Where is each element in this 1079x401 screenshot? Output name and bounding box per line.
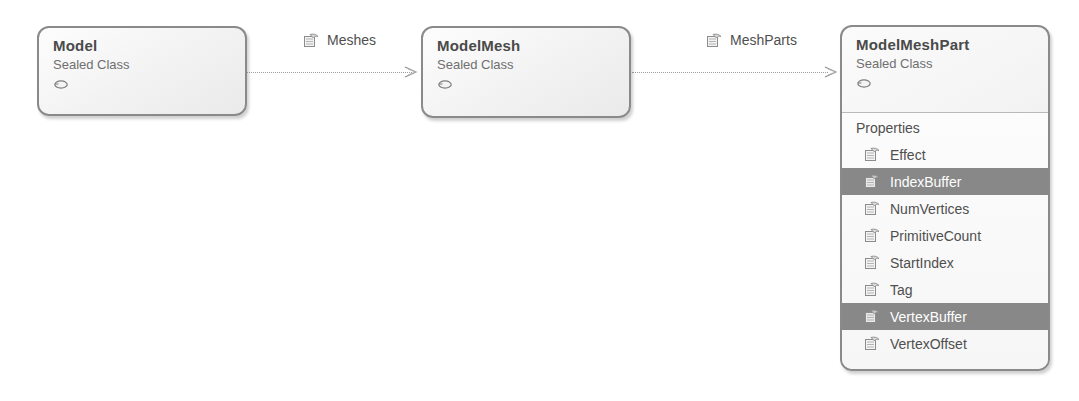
property-name: Tag	[890, 282, 913, 298]
property-name: StartIndex	[890, 255, 954, 271]
property-name: VertexOffset	[890, 336, 967, 352]
class-stereotype: Sealed Class	[437, 56, 629, 74]
property-icon	[864, 309, 881, 324]
property-icon	[864, 147, 881, 162]
property-icon	[864, 336, 881, 351]
association-label-mesh-parts: MeshParts	[706, 32, 797, 48]
property-icon	[864, 174, 881, 189]
property-row-startindex[interactable]: StartIndex	[842, 249, 1048, 276]
property-icon	[864, 255, 881, 270]
properties-compartment: Properties Effect IndexBuffer	[842, 112, 1048, 369]
property-row-effect[interactable]: Effect	[842, 141, 1048, 168]
property-row-indexbuffer[interactable]: IndexBuffer	[842, 168, 1048, 195]
property-icon	[303, 33, 320, 48]
class-stereotype: Sealed Class	[53, 56, 245, 74]
class-title: Model	[53, 37, 245, 54]
association-line-meshes[interactable]	[246, 72, 412, 73]
property-name: Effect	[890, 147, 926, 163]
property-name: VertexBuffer	[890, 309, 967, 325]
class-title: ModelMesh	[437, 37, 629, 54]
sealed-oval-icon	[437, 79, 453, 90]
property-row-vertexbuffer[interactable]: VertexBuffer	[842, 303, 1048, 330]
compartment-title: Properties	[842, 113, 1048, 141]
class-box-model[interactable]: Model Sealed Class	[37, 26, 247, 116]
property-row-numvertices[interactable]: NumVertices	[842, 195, 1048, 222]
diagram-canvas: Meshes MeshParts Model Sealed Class M	[0, 0, 1079, 401]
association-label-text: MeshParts	[730, 32, 797, 48]
class-box-model-mesh-part[interactable]: ModelMeshPart Sealed Class Properties Ef…	[840, 25, 1050, 371]
property-list: Effect IndexBuffer NumVertices P	[842, 141, 1048, 357]
class-box-model-mesh[interactable]: ModelMesh Sealed Class	[421, 26, 631, 118]
association-label-text: Meshes	[327, 32, 376, 48]
property-row-vertexoffset[interactable]: VertexOffset	[842, 330, 1048, 357]
property-row-primitivecount[interactable]: PrimitiveCount	[842, 222, 1048, 249]
association-line-mesh-parts[interactable]	[632, 72, 828, 73]
sealed-oval-icon	[53, 79, 69, 90]
class-title: ModelMeshPart	[856, 36, 1048, 53]
property-icon	[864, 228, 881, 243]
sealed-oval-icon	[856, 78, 872, 89]
class-stereotype: Sealed Class	[856, 55, 1048, 73]
property-row-tag[interactable]: Tag	[842, 276, 1048, 303]
property-icon	[706, 33, 723, 48]
property-name: PrimitiveCount	[890, 228, 981, 244]
association-label-meshes: Meshes	[303, 32, 376, 48]
class-header: ModelMeshPart Sealed Class	[842, 27, 1048, 93]
class-header: ModelMesh Sealed Class	[423, 28, 629, 94]
class-header: Model Sealed Class	[39, 28, 245, 94]
property-icon	[864, 282, 881, 297]
property-icon	[864, 201, 881, 216]
property-name: IndexBuffer	[890, 174, 961, 190]
arrow-head-meshes	[404, 65, 418, 79]
property-name: NumVertices	[890, 201, 969, 217]
arrow-head-mesh-parts	[824, 65, 838, 79]
